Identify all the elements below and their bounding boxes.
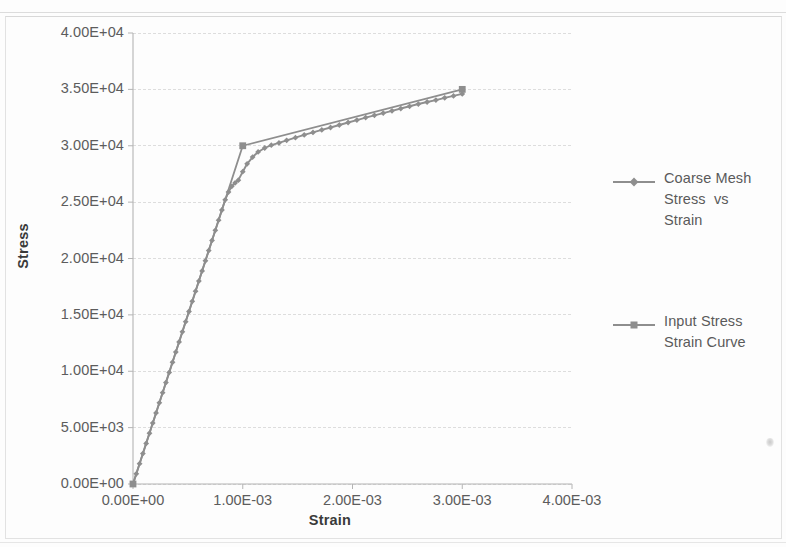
series-line <box>133 94 462 484</box>
data-point-marker <box>301 132 307 138</box>
y-tick-label: 3.50E+04 <box>26 80 124 96</box>
data-point-marker <box>442 95 448 101</box>
data-point-marker <box>424 99 430 105</box>
y-tick-label: 4.00E+04 <box>26 24 124 40</box>
stress-strain-chart: 0.00E+005.00E+031.00E+041.50E+042.00E+04… <box>0 0 786 547</box>
plot-canvas <box>133 33 572 484</box>
x-tick-label: 3.00E-03 <box>402 492 522 508</box>
x-tick-label: 4.00E-03 <box>512 492 632 508</box>
y-axis-title: Stress <box>15 201 31 291</box>
legend-square-marker-icon <box>612 318 656 332</box>
data-point-marker <box>310 130 316 136</box>
legend-label: Input StressStrain Curve <box>664 311 780 353</box>
y-tick-label: 1.00E+04 <box>26 362 124 378</box>
data-point-marker <box>433 97 439 103</box>
y-tick-label: 0.00E+00 <box>26 475 124 491</box>
scan-edge-top <box>0 12 786 13</box>
y-tick-label: 2.50E+04 <box>26 193 124 209</box>
legend-label-line: Strain <box>664 210 780 231</box>
data-point-marker <box>239 142 246 149</box>
legend-label-line: Strain Curve <box>664 332 780 353</box>
scan-edge-bottom <box>0 542 786 543</box>
series-line <box>133 89 462 484</box>
chart-legend: Coarse MeshStress vsStrainInput StressSt… <box>612 168 780 353</box>
data-point-marker <box>459 86 466 93</box>
data-point-marker <box>130 481 137 488</box>
plot-area <box>133 33 572 484</box>
legend-label: Coarse MeshStress vsStrain <box>664 168 780 231</box>
data-point-marker <box>451 93 457 99</box>
legend-entry-1[interactable]: Coarse MeshStress vsStrain <box>612 168 780 231</box>
data-point-marker <box>276 140 282 146</box>
legend-entry-2[interactable]: Input StressStrain Curve <box>612 311 780 353</box>
legend-diamond-marker-icon <box>612 175 656 189</box>
data-point-marker <box>336 122 342 128</box>
y-tick-label: 1.50E+04 <box>26 306 124 322</box>
x-tick-label: 0.00E+00 <box>73 492 193 508</box>
y-tick-label: 5.00E+03 <box>26 419 124 435</box>
data-point-marker <box>293 135 299 141</box>
x-tick-label: 2.00E-03 <box>293 492 413 508</box>
x-tick-label: 1.00E-03 <box>183 492 303 508</box>
data-point-marker <box>345 120 351 126</box>
legend-label-line: Stress vs <box>664 189 780 210</box>
data-point-marker <box>284 137 290 143</box>
y-tick-label: 2.00E+04 <box>26 250 124 266</box>
y-tick-label: 3.00E+04 <box>26 137 124 153</box>
scan-artifact-speck <box>766 438 774 447</box>
x-axis-title: Strain <box>0 512 660 528</box>
data-point-marker <box>354 117 360 123</box>
legend-label-line: Coarse Mesh <box>664 168 780 189</box>
y-axis-tick-labels: 0.00E+005.00E+031.00E+041.50E+042.00E+04… <box>20 33 124 484</box>
data-point-marker <box>328 125 334 131</box>
legend-label-line: Input Stress <box>664 311 780 332</box>
data-point-marker <box>268 142 274 148</box>
data-point-marker <box>319 127 325 133</box>
